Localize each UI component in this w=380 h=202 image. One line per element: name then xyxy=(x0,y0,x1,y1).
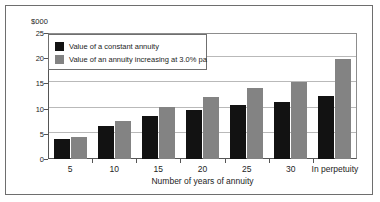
legend-label-series-b: Value of an annuity increasing at 3.0% p… xyxy=(69,55,207,64)
bar-series-b xyxy=(203,97,219,159)
bar-series-b xyxy=(247,88,263,159)
chart-figure: $000 0510152025 51015202530In perpetuity… xyxy=(0,0,380,202)
y-axis-tick-label: 15 xyxy=(36,79,44,88)
legend-label-series-a: Value of a constant annuity xyxy=(69,42,159,51)
legend-item-constant-annuity: Value of a constant annuity xyxy=(55,40,159,52)
bar-series-b xyxy=(335,59,351,159)
x-axis-tick-label: 25 xyxy=(242,164,251,174)
x-axis-tick-mark xyxy=(180,159,181,163)
x-axis-tick-mark xyxy=(92,159,93,163)
chart-legend: Value of a constant annuity Value of an … xyxy=(48,34,207,70)
bar-series-a xyxy=(230,105,246,159)
bar-series-b xyxy=(291,82,307,159)
x-axis-tick-label: 5 xyxy=(68,164,73,174)
y-axis-unit-label: $000 xyxy=(31,17,48,26)
legend-swatch-icon-series-b xyxy=(55,55,64,64)
y-axis-tick-mark xyxy=(44,83,48,84)
x-axis-tick-label: In perpetuity xyxy=(312,164,359,174)
bar-series-a xyxy=(274,102,290,159)
y-axis-tick-mark xyxy=(44,134,48,135)
y-axis-tick-label: 10 xyxy=(36,104,44,113)
bar-series-a xyxy=(142,116,158,159)
x-axis-tick-label: 10 xyxy=(109,164,118,174)
y-axis-tick-mark xyxy=(44,109,48,110)
x-axis-tick-label: 20 xyxy=(198,164,207,174)
bar-series-b xyxy=(159,107,175,159)
y-axis-tick-mark xyxy=(44,159,48,160)
y-axis-tick-label: 20 xyxy=(36,54,44,63)
legend-item-increasing-annuity: Value of an annuity increasing at 3.0% p… xyxy=(55,53,207,65)
x-axis-tick-mark xyxy=(225,159,226,163)
bar-series-a xyxy=(98,126,114,159)
y-axis-tick-label: 25 xyxy=(36,29,44,38)
bar-series-b xyxy=(71,137,87,159)
legend-swatch-icon-series-a xyxy=(55,42,64,51)
bar-series-a xyxy=(186,110,202,159)
x-axis-tick-label: 30 xyxy=(286,164,295,174)
bar-series-b xyxy=(115,121,131,159)
x-axis-tick-label: 15 xyxy=(154,164,163,174)
x-axis-tick-mark xyxy=(269,159,270,163)
x-axis-tick-mark xyxy=(136,159,137,163)
bar-series-a xyxy=(318,96,334,159)
x-axis-tick-mark xyxy=(313,159,314,163)
bar-series-a xyxy=(54,139,70,159)
y-axis-tick-labels: 0510152025 xyxy=(26,33,44,159)
x-axis-title: Number of years of annuity xyxy=(48,176,357,186)
